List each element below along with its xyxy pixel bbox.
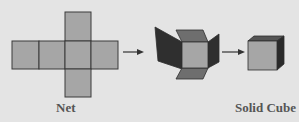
folding-cube — [155, 27, 219, 79]
cube-net — [12, 12, 118, 97]
bottom-flap — [176, 68, 208, 79]
arrow-icon — [222, 49, 245, 55]
solid-cube — [248, 36, 284, 70]
right-flap — [208, 34, 219, 68]
cube-front-face — [248, 41, 277, 70]
arrow-icon — [123, 49, 144, 55]
cube-right-face — [277, 36, 284, 70]
net-face-center — [65, 41, 91, 69]
top-flap — [176, 30, 208, 42]
net-face-2 — [39, 41, 65, 69]
base-face — [182, 42, 208, 68]
net-face-4 — [91, 41, 118, 69]
net-face-bottom — [65, 69, 91, 97]
net-face-1 — [12, 41, 39, 69]
net-label: Net — [56, 100, 76, 116]
net-face-top — [65, 12, 91, 41]
solid-cube-label: Solid Cube — [235, 100, 296, 116]
